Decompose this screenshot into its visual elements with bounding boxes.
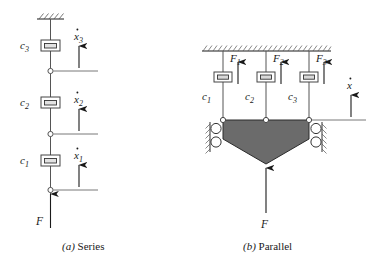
caption-parallel: (b) Parallel [243,240,292,252]
series-damper-label-c2: c2 [20,96,29,111]
parallel-force-label-2: F2 [272,52,284,67]
parallel-ceiling-support [202,46,331,52]
series-damper-label-c1: c1 [20,154,29,169]
caption-series-text: Series [78,240,105,252]
series-overdot-2 [76,92,78,94]
parallel-damper-c1 [214,72,232,82]
parallel-joint-3 [306,117,311,122]
series-joint-3 [48,68,53,73]
parallel-joint-1 [220,117,225,122]
series-damper-label-c3: c3 [20,39,29,54]
series-panel: c3 c2 c1 x3 x2 x1 [20,14,98,229]
series-velocity-label-3: x3 [73,30,83,45]
parallel-damper-c2 [257,72,275,82]
parallel-joint-2 [263,117,268,122]
series-velocity-label-1: x1 [73,149,83,164]
parallel-roller-right-1 [311,123,321,133]
damper-configuration-figure: c3 c2 c1 x3 x2 x1 [0,0,380,272]
series-overdot-3 [76,29,78,31]
series-joint-1 [48,187,53,192]
caption-series: (a) Series [62,240,104,252]
parallel-force-label-3: F3 [315,52,327,67]
parallel-roller-left-1 [211,123,221,133]
series-damper-c3 [41,40,60,51]
caption-series-letter: (a) [62,240,75,252]
series-ceiling-support [37,14,64,20]
parallel-guide-right [311,122,327,154]
parallel-force-label: F [260,218,269,230]
caption-parallel-text: Parallel [259,240,293,252]
parallel-damper-label-c1: c1 [202,90,211,105]
parallel-roller-right-2 [311,137,321,147]
parallel-velocity-label: x [346,79,352,91]
parallel-mass-body [223,120,309,164]
parallel-damper-label-c3: c3 [288,90,297,105]
parallel-guide-left [206,122,222,154]
parallel-damper-c3 [300,72,318,82]
series-velocity-label-2: x2 [73,93,83,108]
caption-parallel-letter: (b) [243,240,256,252]
parallel-damper-label-c2: c2 [245,90,254,105]
parallel-roller-left-2 [211,137,221,147]
parallel-force-label-1: F1 [229,52,241,67]
series-joint-2 [48,131,53,136]
figure-canvas: c3 c2 c1 x3 x2 x1 [0,0,380,272]
series-overdot-1 [76,148,78,150]
parallel-overdot [349,78,351,80]
series-force-label: F [35,215,44,227]
series-damper-c2 [41,97,60,108]
series-damper-c1 [41,155,60,166]
parallel-panel: c1 c2 c3 F1 F2 F3 [202,46,366,231]
